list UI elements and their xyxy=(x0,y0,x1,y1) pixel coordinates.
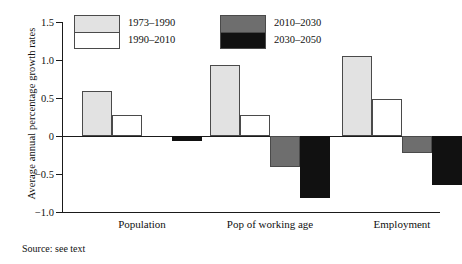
x-axis-category-label: Pop of working age xyxy=(227,218,313,230)
legend-label: 1973–1990 xyxy=(128,15,175,31)
legend-swatch xyxy=(75,32,119,48)
zero-baseline xyxy=(62,136,440,137)
bar xyxy=(372,99,402,136)
y-axis-tick xyxy=(56,98,63,99)
bar xyxy=(402,136,432,153)
y-axis-tick xyxy=(56,212,63,213)
y-axis-tick xyxy=(56,22,63,23)
y-axis-tick-label: 1.0 xyxy=(10,55,54,66)
y-axis-title: Average annual percentage growth rates xyxy=(26,4,37,224)
legend-swatch xyxy=(75,16,119,32)
legend-label: 2010–2030 xyxy=(274,15,321,31)
y-axis-tick-label: 0 xyxy=(10,131,54,142)
y-axis-tick xyxy=(56,136,63,137)
bar xyxy=(210,65,240,136)
bar xyxy=(300,136,330,198)
x-axis-line xyxy=(62,212,440,213)
legend-label-stack: 2010–20302030–2050 xyxy=(274,15,321,48)
bar xyxy=(432,136,462,185)
bar xyxy=(270,136,300,167)
legend-label: 2030–2050 xyxy=(274,32,321,48)
bar xyxy=(82,91,112,136)
legend-label: 1990–2010 xyxy=(128,32,175,48)
y-axis-tick-label: −1.0 xyxy=(10,207,54,218)
y-axis-tick xyxy=(56,174,63,175)
bar xyxy=(172,136,202,141)
bar xyxy=(240,115,270,136)
x-axis-category-label: Employment xyxy=(374,218,431,230)
y-axis-tick-label: 0.5 xyxy=(10,93,54,104)
y-axis-tick xyxy=(56,60,63,61)
y-axis-tick-label: 1.5 xyxy=(10,17,54,28)
legend-swatch-stack xyxy=(220,15,266,49)
legend-group: 2010–20302030–2050 xyxy=(220,15,266,49)
legend-group: 1973–19901990–2010 xyxy=(74,15,120,49)
legend-label-stack: 1973–19901990–2010 xyxy=(128,15,175,48)
legend-swatch xyxy=(221,32,265,48)
bar xyxy=(342,56,372,136)
y-axis-tick-label: −0.5 xyxy=(10,169,54,180)
legend-swatch-stack xyxy=(74,15,120,49)
plot-area: 1.51.00.50−0.5−1.0 PopulationPop of work… xyxy=(62,22,440,212)
y-axis-line xyxy=(62,22,63,212)
x-axis-category-label: Population xyxy=(118,218,166,230)
bar xyxy=(112,115,142,136)
source-note: Source: see text xyxy=(22,243,85,254)
legend-swatch xyxy=(221,16,265,32)
